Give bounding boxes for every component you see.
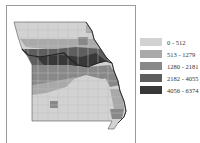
legend-item: 4056 - 6374: [140, 84, 200, 96]
legend: 0 - 512 513 - 1279 1280 - 2181 2182 - 40…: [140, 36, 200, 96]
legend-item: 513 - 1279: [140, 48, 200, 60]
legend-label: 513 - 1279: [167, 51, 195, 58]
legend-label: 0 - 512: [167, 39, 185, 46]
legend-swatch: [140, 62, 162, 70]
legend-item: 1280 - 2181: [140, 60, 200, 72]
legend-swatch: [140, 74, 162, 82]
legend-item: 0 - 512: [140, 36, 200, 48]
legend-item: 2182 - 4055: [140, 72, 200, 84]
legend-swatch: [140, 86, 162, 94]
legend-label: 1280 - 2181: [167, 63, 198, 70]
legend-swatch: [140, 50, 162, 58]
legend-label: 2182 - 4055: [167, 75, 198, 82]
legend-swatch: [140, 38, 162, 46]
legend-label: 4056 - 6374: [167, 87, 198, 94]
missouri-choropleth-map: [6, 5, 137, 143]
